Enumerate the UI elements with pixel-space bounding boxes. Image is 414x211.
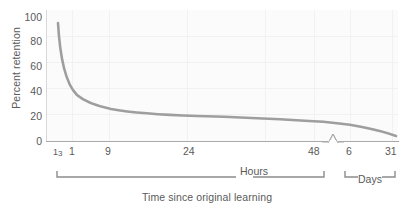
y-tick-20: 20 <box>16 111 42 122</box>
y-axis-line <box>46 10 47 141</box>
y-tick-80: 80 <box>16 36 42 47</box>
x-tick-1: 1 <box>69 146 75 157</box>
days-bracket-label: Days <box>358 174 382 185</box>
plot-area <box>47 10 398 141</box>
x-axis-caption: Time since original learning <box>0 191 414 203</box>
x-axis-line <box>46 141 399 142</box>
x-tick-6d: 6 <box>346 146 352 157</box>
y-tick-60: 60 <box>16 61 42 72</box>
x-tick-48: 48 <box>308 146 320 157</box>
hours-bracket-right <box>253 170 326 182</box>
x-tick-31d: 31 <box>385 146 397 157</box>
forgetting-curve-figure: Percent retention 100 80 60 40 20 0 13 1… <box>0 0 414 211</box>
hours-bracket-left <box>56 170 236 182</box>
y-tick-40: 40 <box>16 86 42 97</box>
x-tick-one-third-den: 3 <box>58 145 62 157</box>
y-axis-tick-labels: 100 80 60 40 20 0 <box>14 0 42 160</box>
x-tick-24: 24 <box>183 146 195 157</box>
y-tick-0: 0 <box>16 136 42 147</box>
retention-curve <box>47 10 398 141</box>
axis-break-icon <box>322 133 344 143</box>
y-tick-100: 100 <box>16 12 42 23</box>
x-tick-9: 9 <box>105 146 111 157</box>
x-tick-one-third: 13 <box>53 146 62 158</box>
